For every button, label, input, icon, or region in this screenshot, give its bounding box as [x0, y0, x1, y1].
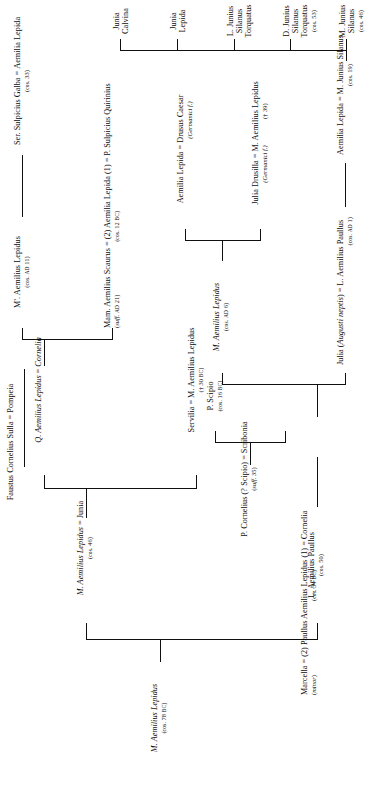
line-silanus-to-d-junius-silanus — [290, 39, 291, 51]
node-quirinius-name: P. Sulpicius Quirinius — [103, 83, 112, 155]
line-q-lepidus-bracket — [22, 339, 112, 340]
node-l-junius-silanus-torquatus: L. Junius Silanus Torquatus — [226, 3, 254, 39]
line-lepidus46-to-q-lepidus — [44, 475, 45, 489]
node-mn-aemilius-lepidus-ad11-name: M'. Aemilius Lepidus — [13, 236, 22, 308]
node-l-aemilius-paullus-note: (cos. AD 1) — [346, 217, 353, 245]
node-root-note: (cos. 78 BC) — [160, 702, 167, 733]
node-lepidus-cos-ad6-name: M. Aemilius Lepidus — [212, 283, 221, 351]
node-p-cornelius-scribonia: P. Cornelius (? Scipio)=Scribonia (suff.… — [240, 393, 257, 565]
node-q-aemilius-lepidus: Q. Aemilius Lepidus=Cornelia — [34, 305, 43, 475]
node-l-aemilius-paullus-name: L. Aemilius Paullus — [336, 220, 345, 286]
node-l-aemilius-paullus: Julia (Augusti neptis)=L. Aemilius Paull… — [336, 205, 353, 365]
line-lepidus46-to-servilia — [196, 475, 197, 489]
marriage-equals-icon: = — [13, 69, 22, 78]
line-l-paullus-to-aemilia-lepida — [345, 163, 346, 207]
node-lepidus-cos-ad6: M. Aemilius Lepidus (cos. AD 6) — [212, 261, 229, 373]
node-lepidus-cos46-note: (cos. 46) — [86, 537, 93, 559]
line-p-cornelius-stem — [250, 443, 251, 465]
line-p-cornelius-to-cornelia — [285, 431, 286, 443]
line-root-to-lepidus46 — [86, 623, 87, 640]
marriage-equals-icon: = — [336, 286, 345, 295]
node-aemilia-lepida-drusus: Aemilia Lepida=Drusus Caesar (Germanici … — [176, 69, 193, 229]
line-paullus-lepidus-stem — [317, 385, 318, 417]
line-silanus-to-junia-calvina — [120, 39, 121, 51]
marriage-equals-icon-2: = — [300, 657, 309, 666]
node-junia-lepida: Junia Lepida — [169, 3, 187, 39]
node-lepidus-cos-ad6-note: (cos. AD 6) — [222, 303, 229, 331]
node-mn-aemilius-lepidus-ad11-note: (cos. AD 11) — [23, 256, 30, 287]
line-sulla-to-cornelia — [24, 369, 25, 467]
line-root-to-paullus50 — [317, 623, 318, 640]
node-servilia-lepidus: Servilia=M. Aemilius Lepidus († 30 BC) — [187, 285, 204, 475]
marriage-order-2: (2) — [300, 647, 309, 657]
node-m-junius-silanus-cos19-note: (cos. 19) — [346, 64, 353, 86]
node-paullus-lepidus-marriages: Marcella=(2) Paullus Aemilius Lepidus (1… — [300, 405, 317, 695]
line-lepidus-ad6-stem — [222, 241, 223, 261]
line-silanus-to-l-junius-silanus — [234, 39, 235, 51]
marriage-equals-icon: = — [6, 413, 15, 422]
node-julia-drusilla-lepidus: Julia Drusilla=M. Aemilius Lepidus (Germ… — [251, 57, 268, 229]
node-junia-calvina-name: Junia Calvina — [112, 8, 130, 34]
line-silanus-to-m-junius-silanus — [346, 39, 347, 51]
stemma-page: M. Aemilius Lepidus (cos. 78 BC) M. Aemi… — [0, 0, 372, 795]
node-faustus-sulla-name: Faustus Cornelius Sulla — [6, 421, 15, 500]
marriage-equals-icon: = — [34, 367, 43, 376]
node-root-name: M. Aemilius Lepidus — [150, 684, 159, 752]
node-quirinius-note: (cos. 12 BC) — [113, 211, 120, 242]
node-lepidus-39-note: († 39) — [261, 103, 268, 119]
stemma-canvas: M. Aemilius Lepidus (cos. 78 BC) M. Aemi… — [0, 0, 372, 795]
node-galba-aemilia-lepida: Ser. Sulpicius Galba=Aemilia Lepida (cos… — [13, 7, 30, 155]
node-root: M. Aemilius Lepidus (cos. 78 BC) — [150, 663, 167, 773]
node-aemilia-lepida-wife: Aemilia Lepida — [103, 176, 112, 228]
line-lepidus-ad6-to-aemilia-lepida — [185, 229, 186, 241]
node-mn-aemilius-lepidus-ad11: M'. Aemilius Lepidus (cos. AD 11) — [13, 216, 30, 328]
node-aemilia-lepida-silanus: Aemilia Lepida=M. Junius Silanus (cos. 1… — [336, 27, 353, 163]
node-galba-aemilia-lepida-spouse: Aemilia Lepida — [13, 17, 22, 69]
node-m-junius-silanus-cos46-note: (cos. 46) — [357, 10, 364, 32]
node-paullus-lepidus-name: Paullus Aemilius Lepidus (1) — [300, 548, 309, 645]
node-p-cornelius-name: P. Cornelius (? Scipio) — [240, 462, 249, 537]
node-cornelia-name: Cornelia — [300, 511, 309, 540]
node-m-junius-silanus-cos46: M. Junius Silanus (cos. 46) — [338, 3, 364, 39]
node-lepidus-cos46-name: M. Aemilius Lepidus — [76, 527, 85, 595]
node-q-aemilius-lepidus-name: Q. Aemilius Lepidus — [34, 375, 43, 442]
line-q-lepidus-to-aemilia-lepida — [112, 328, 113, 340]
node-junia-calvina: Junia Calvina — [112, 3, 130, 39]
line-lepidus-ad6-bracket — [185, 240, 260, 241]
node-junia-lepida-name: Junia Lepida — [169, 9, 187, 32]
line-paullus-lepidus-to-lepidus-ad6 — [222, 373, 223, 385]
node-galba-aemilia-lepida-name: Ser. Sulpicius Galba — [13, 77, 22, 145]
line-p-cornelius-to-p-scipio — [215, 431, 216, 443]
node-marcella-note: (minor) — [310, 675, 317, 695]
node-aemilia-lepida-drusus-name: Aemilia Lepida — [176, 152, 185, 204]
node-p-scipio-note: (cos. 16 BC) — [216, 380, 223, 411]
node-servilia-note: († 30 BC) — [197, 368, 204, 393]
marriage-equals-icon-1: = — [103, 156, 112, 165]
node-l-junius-silanus-torquatus-name: L. Junius Silanus Torquatus — [226, 4, 253, 37]
marriage-equals-icon-1: = — [300, 539, 309, 548]
node-servilia-name: Servilia — [187, 407, 196, 433]
marriage-equals-icon: = — [76, 518, 85, 527]
line-silanus-children-bracket — [120, 50, 346, 51]
line-root-bracket — [86, 639, 317, 640]
marriage-equals-icon: = — [240, 453, 249, 462]
line-lepidus-ad6-to-lepidus-39 — [260, 229, 261, 241]
line-lepidus46-bracket — [44, 488, 196, 489]
line-silanus-children-stem — [346, 50, 347, 61]
node-julia-drusilla-name: Julia Drusilla — [251, 160, 260, 205]
node-paullus-cos50-note: (cos. 50) — [317, 554, 324, 576]
marriage-equals-icon: = — [336, 94, 345, 103]
node-servilia-spouse: M. Aemilius Lepidus — [187, 328, 196, 398]
node-d-junius-silanus-torquatus-name: D. Junius Silanus Torquatus — [282, 4, 309, 37]
node-faustus-sulla-spouse: Pompeia — [6, 384, 15, 413]
line-q-lepidus-stem — [44, 340, 45, 366]
node-aemilia-lepida-scaurus-quirinius: Mam. Aemilius Scaurus=(2) Aemilia Lepida… — [103, 88, 120, 328]
line-paullus-lepidus-to-l-paullus — [345, 373, 346, 385]
node-paullus-lepidus-note: (cos. 34 BC) — [310, 570, 317, 601]
node-q-aemilius-lepidus-spouse: Cornelia — [34, 337, 43, 367]
node-m-junius-silanus-cos46-name: M. Junius Silanus — [338, 5, 356, 38]
node-m-junius-silanus-cos19-name: M. Junius Silanus — [336, 35, 345, 94]
node-lepidus-cos46: M. Aemilius Lepidus=Junia (cos. 46) — [76, 473, 93, 623]
line-mn-lepidus-to-galba-wife — [22, 155, 23, 217]
marriage-equals-icon: = — [251, 152, 260, 161]
